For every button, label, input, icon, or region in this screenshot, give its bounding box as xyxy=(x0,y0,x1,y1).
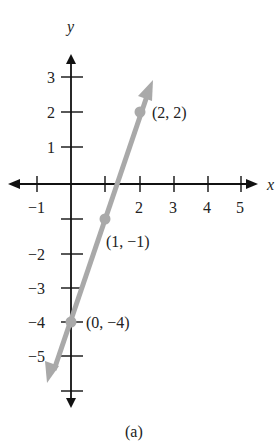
annotation-2-2: (2, 2) xyxy=(152,104,187,122)
point-2-2 xyxy=(135,107,146,118)
y-axis xyxy=(61,54,83,408)
y-tick-label-neg5: −5 xyxy=(28,348,45,365)
y-tick-label-neg4: −4 xyxy=(28,314,45,331)
x-tick-label-5: 5 xyxy=(236,199,244,216)
x-axis-right-arrow-icon xyxy=(246,179,258,189)
y-tick-label-neg3: −3 xyxy=(28,280,45,297)
y-tick-label-2: 2 xyxy=(47,104,55,121)
chart-canvas: y x −1 2 3 4 5 3 2 1 −2 −3 −4 −5 (2, 2) … xyxy=(0,0,280,443)
y-tick-label-3: 3 xyxy=(47,69,55,86)
line-up-arrow-icon xyxy=(138,80,153,101)
y-axis-up-arrow-icon xyxy=(66,54,76,64)
x-tick-label-3: 3 xyxy=(169,199,177,216)
figure-caption: (a) xyxy=(125,423,143,441)
y-axis-down-arrow-icon xyxy=(66,398,76,408)
annotation-0-neg4: (0, −4) xyxy=(86,314,130,332)
point-1-neg1 xyxy=(100,214,111,225)
point-0-neg4 xyxy=(66,317,77,328)
x-axis-label: x xyxy=(266,176,274,193)
x-tick-label-2: 2 xyxy=(135,199,143,216)
y-tick-label-neg2: −2 xyxy=(28,246,45,263)
y-axis-label: y xyxy=(65,18,75,36)
x-tick-label-4: 4 xyxy=(203,199,211,216)
series-line xyxy=(45,80,153,383)
x-axis-left-arrow-icon xyxy=(8,179,20,189)
annotation-1-neg1: (1, −1) xyxy=(106,233,150,251)
y-tick-label-1: 1 xyxy=(47,139,55,156)
x-axis xyxy=(8,176,258,192)
x-tick-label-neg1: −1 xyxy=(28,199,45,216)
